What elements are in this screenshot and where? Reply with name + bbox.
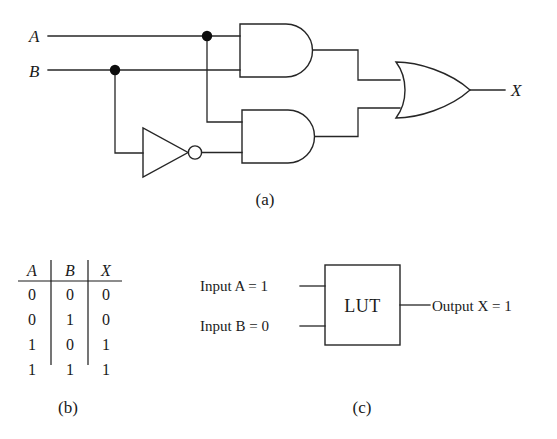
truth-table-cell: 1 [66, 311, 74, 328]
lut-diagram-group: Input A = 1 Input B = 0 LUT Output X = 1… [200, 265, 512, 417]
truth-table-group: A B X 0 0 0 0 1 0 1 0 [18, 260, 122, 417]
circuit-diagram-group: A B [28, 24, 522, 209]
wire-a-branch [207, 36, 242, 122]
truth-table-cell: 1 [28, 336, 36, 353]
truth-table-cell: 0 [66, 336, 74, 353]
lut-input-a-label: Input A = 1 [200, 278, 268, 294]
table-row: 1 0 1 [28, 336, 110, 353]
truth-table-header-x: X [100, 262, 112, 279]
truth-table-cell: 0 [28, 286, 36, 303]
circuit-input-a-label: A [28, 27, 40, 46]
not-gate [143, 128, 188, 177]
junction-dot-a [202, 31, 212, 41]
truth-table-cell: 1 [102, 336, 110, 353]
truth-table-header-a: A [26, 262, 37, 279]
wire-b-branch [115, 70, 143, 153]
wire-and-bottom-output [315, 108, 400, 137]
and-gate-bottom [242, 110, 315, 163]
lut-output-label: Output X = 1 [432, 298, 512, 314]
or-gate [396, 62, 470, 118]
lut-box-label: LUT [344, 296, 381, 316]
truth-table-cell: 1 [28, 361, 36, 378]
table-row: 0 0 0 [28, 286, 110, 303]
figure-container: A B [0, 0, 557, 439]
and-gate-top [240, 24, 313, 77]
truth-table-cell: 0 [102, 311, 110, 328]
not-gate-bubble-icon [188, 146, 201, 159]
truth-table-cell: 1 [102, 361, 110, 378]
junction-dot-b [110, 65, 120, 75]
caption-b: (b) [58, 398, 78, 417]
table-row: 0 1 0 [28, 311, 110, 328]
caption-c: (c) [353, 398, 372, 417]
lut-input-b-label: Input B = 0 [200, 318, 269, 334]
wire-and-top-output [313, 50, 400, 80]
circuit-output-x-label: X [510, 81, 522, 100]
table-row: 1 1 1 [28, 361, 110, 378]
truth-table-cell: 0 [102, 286, 110, 303]
circuit-input-b-label: B [29, 62, 40, 81]
truth-table-header-b: B [65, 262, 75, 279]
truth-table-cell: 1 [66, 361, 74, 378]
caption-a: (a) [256, 190, 275, 209]
figure-svg: A B [0, 0, 557, 439]
truth-table-cell: 0 [28, 311, 36, 328]
truth-table-cell: 0 [66, 286, 74, 303]
